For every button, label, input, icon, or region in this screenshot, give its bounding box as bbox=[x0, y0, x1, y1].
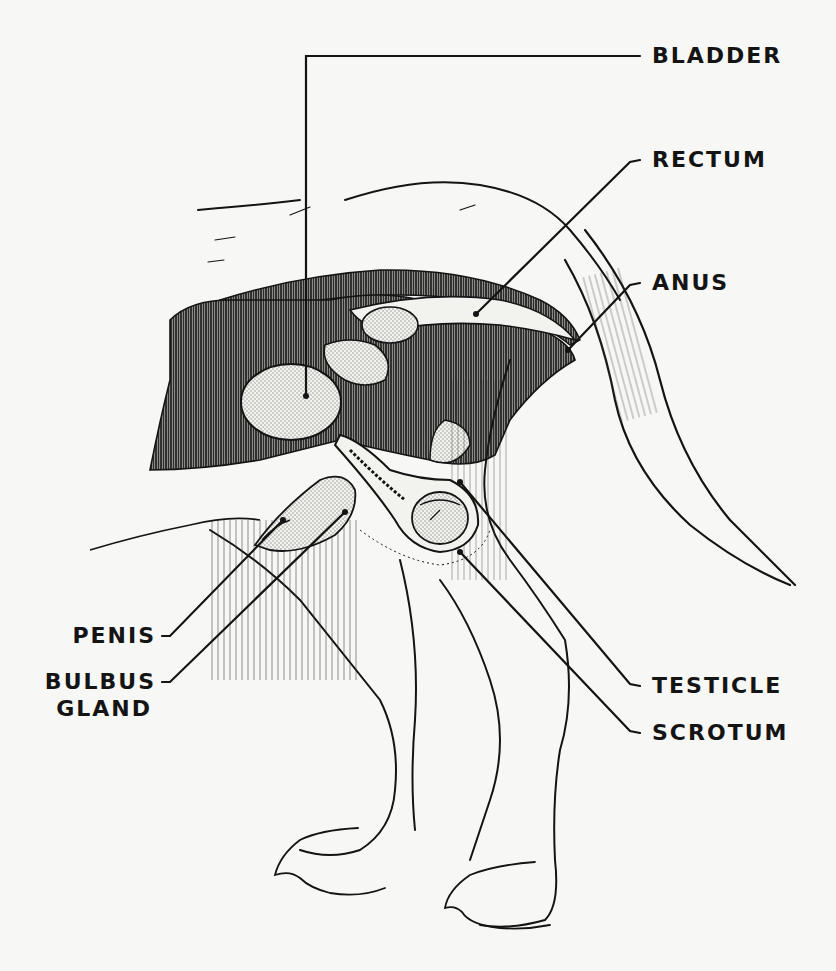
label-anus: ANUS bbox=[652, 271, 729, 295]
label-scrotum: SCROTUM bbox=[652, 721, 788, 745]
anatomy-diagram: BLADDER RECTUM ANUS TESTICLE SCROTUM PEN… bbox=[0, 0, 836, 971]
bladder bbox=[241, 364, 341, 440]
label-penis: PENIS bbox=[72, 624, 156, 648]
label-gland: GLAND bbox=[56, 697, 152, 721]
label-rectum: RECTUM bbox=[652, 148, 767, 172]
label-bulbus: BULBUS bbox=[45, 670, 156, 694]
label-testicle: TESTICLE bbox=[652, 674, 782, 698]
dog-illustration bbox=[0, 0, 836, 971]
label-bladder: BLADDER bbox=[652, 44, 782, 68]
paws bbox=[275, 828, 550, 929]
